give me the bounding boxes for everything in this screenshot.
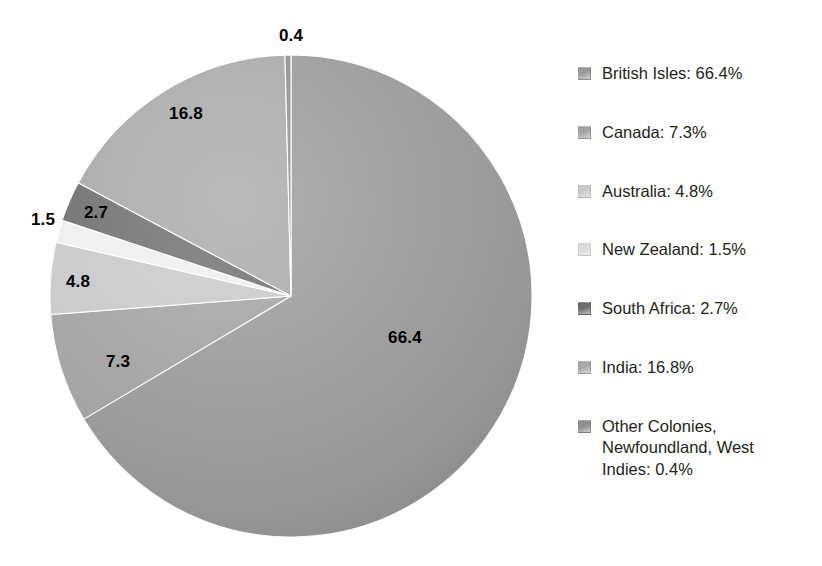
pie-chart-figure: 66.47.34.81.52.716.80.4 British Isles: 6…: [0, 0, 822, 566]
legend-item[interactable]: Australia: 4.8%: [578, 181, 818, 203]
legend-color-swatch-icon: [578, 67, 591, 80]
pie-slice-label: 1.5: [31, 211, 55, 228]
legend-item-label: Other Colonies, Newfoundland, West Indie…: [602, 416, 754, 481]
legend-color-swatch-icon: [578, 420, 591, 433]
pie-slice-label: 0.4: [279, 27, 303, 44]
pie-slice-label: 4.8: [66, 273, 90, 290]
legend-color-swatch-icon: [578, 302, 591, 315]
pie-slice-label: 16.8: [169, 105, 203, 122]
legend-item[interactable]: New Zealand: 1.5%: [578, 239, 818, 261]
chart-legend: British Isles: 66.4%Canada: 7.3%Australi…: [578, 63, 818, 518]
legend-color-swatch-icon: [578, 361, 591, 374]
legend-item[interactable]: British Isles: 66.4%: [578, 63, 818, 85]
legend-item-label: New Zealand: 1.5%: [602, 239, 746, 261]
legend-item[interactable]: Canada: 7.3%: [578, 122, 818, 144]
legend-item-label: British Isles: 66.4%: [602, 63, 742, 85]
legend-item-label: India: 16.8%: [602, 357, 694, 379]
legend-item[interactable]: South Africa: 2.7%: [578, 298, 818, 320]
pie-slice-label: 7.3: [106, 353, 130, 370]
pie-plot-area: 66.47.34.81.52.716.80.4: [0, 0, 560, 566]
legend-item-label: Canada: 7.3%: [602, 122, 707, 144]
legend-item[interactable]: India: 16.8%: [578, 357, 818, 379]
pie-slice-group: [50, 55, 532, 537]
legend-color-swatch-icon: [578, 185, 591, 198]
legend-color-swatch-icon: [578, 126, 591, 139]
legend-item[interactable]: Other Colonies, Newfoundland, West Indie…: [578, 416, 818, 481]
legend-item-label: South Africa: 2.7%: [602, 298, 738, 320]
pie-slice-label: 66.4: [388, 329, 422, 346]
legend-color-swatch-icon: [578, 243, 591, 256]
pie-slice-label: 2.7: [84, 204, 108, 221]
legend-item-label: Australia: 4.8%: [602, 181, 713, 203]
